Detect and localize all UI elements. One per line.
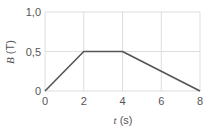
y-tick-label: 0,5 — [26, 46, 41, 58]
y-tick-label: 1,0 — [26, 6, 41, 18]
chart: 02468 00,51,0 B (T) t (s) — [0, 0, 211, 134]
y-tick-label: 0 — [35, 85, 41, 97]
x-tick-label: 0 — [42, 95, 48, 107]
x-tick-labels: 02468 — [42, 95, 203, 107]
x-tick-label: 8 — [197, 95, 203, 107]
x-tick-label: 4 — [119, 95, 125, 107]
y-tick-labels: 00,51,0 — [26, 6, 41, 97]
y-axis-label: B (T) — [4, 40, 16, 64]
x-axis-label: t (s) — [114, 114, 133, 126]
x-tick-label: 2 — [81, 95, 87, 107]
x-tick-label: 6 — [158, 95, 164, 107]
